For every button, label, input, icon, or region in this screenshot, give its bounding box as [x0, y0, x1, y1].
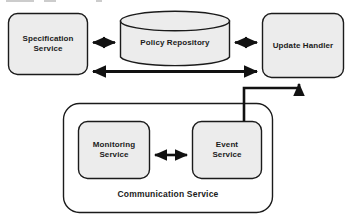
node-policy-repository-top: [121, 11, 230, 31]
node-monitoring-service[interactable]: [79, 122, 150, 179]
node-specification-service-shape: [9, 14, 88, 75]
diagram-canvas: Specification Service Policy Repository …: [0, 0, 353, 218]
node-update-handler[interactable]: [263, 14, 344, 78]
node-update-handler-shape: [263, 14, 344, 78]
node-event-service-shape: [193, 122, 262, 179]
diagram-svg: [0, 0, 353, 218]
node-event-service[interactable]: [193, 122, 262, 179]
node-monitoring-service-shape: [79, 122, 150, 179]
node-specification-service[interactable]: [9, 14, 88, 75]
node-policy-repository[interactable]: [121, 11, 230, 65]
